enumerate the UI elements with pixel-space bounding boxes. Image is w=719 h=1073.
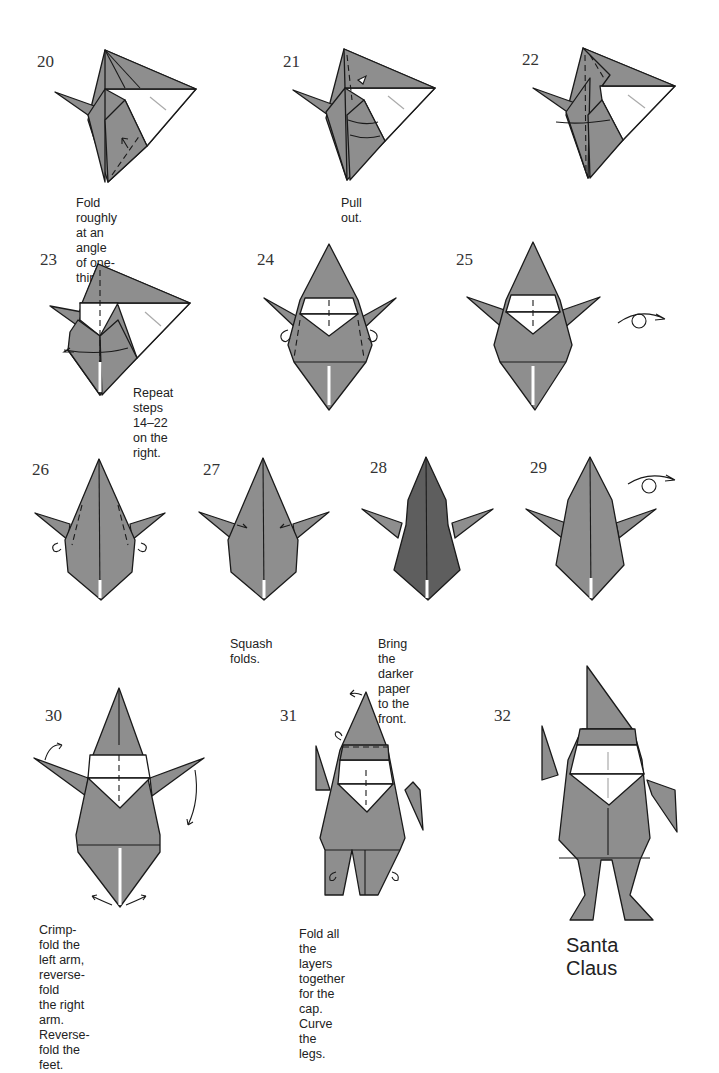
step-caption: Fold all the layers together for the cap…	[299, 927, 345, 1062]
caption-line: for the cap. Curve the legs.	[299, 987, 345, 1062]
caption-line: the right arm. Reverse-fold the feet.	[39, 998, 90, 1073]
result-title: Santa Claus	[566, 934, 618, 980]
step-caption: Crimp-fold the left arm, reverse-fold th…	[39, 923, 90, 1073]
origami-figure-step-32	[0, 0, 719, 940]
